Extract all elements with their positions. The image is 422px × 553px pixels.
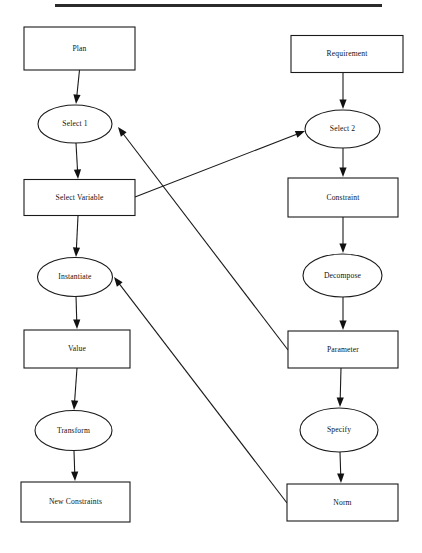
node-plan-label: Plan bbox=[72, 44, 86, 53]
edge-value-to-transform-line bbox=[75, 368, 77, 403]
node-select_variable[interactable]: Select Variable bbox=[24, 180, 135, 216]
edge-select-variable-to-select2-line bbox=[135, 134, 298, 197]
node-select1-label: Select 1 bbox=[62, 119, 88, 128]
edge-select1-from-parameter-arrowhead-icon bbox=[118, 127, 127, 137]
node-value[interactable]: Value bbox=[24, 330, 130, 368]
edge-select-variable-to-select2-arrowhead-icon bbox=[295, 131, 305, 138]
flowchart-canvas: PlanSelect 1Select VariableInstantiateVa… bbox=[0, 0, 422, 553]
edge-transform-to-new-constraints bbox=[71, 451, 78, 481]
node-select1[interactable]: Select 1 bbox=[38, 105, 112, 143]
edge-transform-to-new-constraints-line bbox=[74, 451, 75, 474]
edge-specify-to-norm-line bbox=[340, 452, 341, 476]
edge-select2-to-constraint bbox=[339, 148, 346, 177]
node-decompose-label: Decompose bbox=[324, 271, 362, 280]
node-select2-label: Select 2 bbox=[330, 124, 356, 133]
edge-plan-to-select1-arrowhead-icon bbox=[73, 94, 80, 104]
node-select2[interactable]: Select 2 bbox=[305, 110, 380, 148]
edge-decompose-to-parameter-arrowhead-icon bbox=[339, 321, 346, 331]
node-norm-label: Norm bbox=[333, 498, 351, 507]
edge-parameter-to-specify-arrowhead-icon bbox=[337, 397, 344, 407]
edge-instantiate-from-norm-arrowhead-icon bbox=[114, 277, 123, 287]
node-parameter-label: Parameter bbox=[327, 345, 359, 354]
edge-instantiate-to-value-line bbox=[76, 296, 77, 322]
node-constraint[interactable]: Constraint bbox=[288, 178, 398, 217]
edge-requirement-to-select2-arrowhead-icon bbox=[339, 100, 346, 110]
edge-select-variable-to-instantiate-arrowhead-icon bbox=[73, 247, 80, 257]
node-plan[interactable]: Plan bbox=[24, 27, 135, 70]
node-constraint-label: Constraint bbox=[326, 193, 360, 202]
node-decompose[interactable]: Decompose bbox=[303, 254, 382, 297]
edge-decompose-to-parameter bbox=[339, 297, 346, 330]
edge-instantiate-from-norm bbox=[114, 277, 287, 503]
edge-select1-to-select-variable bbox=[74, 143, 81, 179]
node-instantiate[interactable]: Instantiate bbox=[38, 258, 113, 297]
edge-specify-to-norm bbox=[337, 452, 344, 483]
edge-select2-to-constraint-arrowhead-icon bbox=[339, 168, 346, 178]
flowchart-diagram: PlanSelect 1Select VariableInstantiateVa… bbox=[0, 0, 422, 553]
edge-select-variable-to-instantiate-line bbox=[76, 216, 78, 250]
node-parameter[interactable]: Parameter bbox=[288, 331, 398, 368]
node-requirement-label: Requirement bbox=[327, 49, 369, 58]
edge-parameter-to-specify-line bbox=[340, 368, 341, 400]
edge-plan-to-select1 bbox=[73, 70, 80, 104]
edge-select1-from-parameter-line bbox=[123, 133, 288, 350]
node-select_variable-label: Select Variable bbox=[56, 193, 104, 202]
edge-select1-from-parameter bbox=[118, 127, 288, 350]
edge-value-to-transform-arrowhead-icon bbox=[71, 400, 78, 410]
edge-plan-to-select1-line bbox=[77, 70, 80, 97]
node-transform[interactable]: Transform bbox=[35, 411, 112, 451]
node-specify[interactable]: Specify bbox=[300, 408, 378, 452]
edge-specify-to-norm-arrowhead-icon bbox=[337, 473, 344, 483]
edge-select-variable-to-select2 bbox=[135, 131, 305, 197]
edge-parameter-to-specify bbox=[337, 368, 344, 407]
edge-requirement-to-select2 bbox=[339, 72, 346, 109]
edge-instantiate-to-value-arrowhead-icon bbox=[73, 319, 80, 329]
node-instantiate-label: Instantiate bbox=[58, 272, 92, 281]
node-transform-label: Transform bbox=[57, 426, 90, 435]
edge-select1-to-select-variable-line bbox=[76, 143, 78, 172]
edge-constraint-to-decompose bbox=[339, 217, 346, 253]
node-norm[interactable]: Norm bbox=[287, 484, 398, 521]
node-new_constraints-label: New Constraints bbox=[49, 497, 102, 506]
edge-constraint-to-decompose-arrowhead-icon bbox=[339, 244, 346, 254]
edge-select1-to-select-variable-arrowhead-icon bbox=[74, 169, 81, 179]
node-requirement[interactable]: Requirement bbox=[291, 36, 403, 73]
node-specify-label: Specify bbox=[327, 425, 351, 434]
edge-instantiate-to-value bbox=[73, 296, 80, 329]
edge-value-to-transform bbox=[71, 368, 78, 410]
edge-transform-to-new-constraints-arrowhead-icon bbox=[71, 471, 78, 481]
top-horizontal-rule bbox=[55, 4, 382, 7]
node-new_constraints[interactable]: New Constraints bbox=[21, 482, 130, 522]
edge-select-variable-to-instantiate bbox=[73, 216, 80, 257]
node-value-label: Value bbox=[68, 344, 87, 353]
